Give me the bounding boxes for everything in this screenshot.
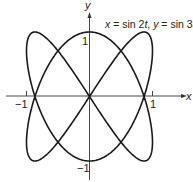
y-tick-label-neg1: −1 <box>77 163 90 174</box>
x-axis-label: x <box>186 91 192 102</box>
y-tick-label-pos1: 1 <box>82 36 88 47</box>
x-tick-label-pos1: 1 <box>150 99 156 110</box>
formula-y-rhs: = sin 3 <box>158 18 192 30</box>
chart-title-formula: x = sin 2t, y = sin 3t <box>105 19 193 30</box>
y-axis-arrow-icon <box>88 12 92 18</box>
y-axis-label: y <box>85 0 91 11</box>
formula-x-rhs: = sin 2 <box>110 18 144 30</box>
x-tick-label-neg1: −1 <box>15 99 28 110</box>
